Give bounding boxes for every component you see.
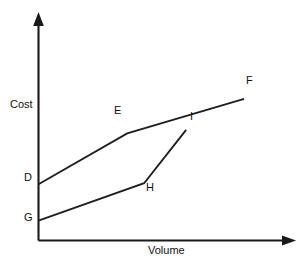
- series-line-lower-cost-curve: [39, 130, 187, 221]
- point-label-d: D: [24, 172, 32, 183]
- y-axis-arrow-icon: [33, 12, 44, 26]
- chart-canvas: Cost Volume D E F G H I: [0, 0, 308, 262]
- x-axis-title: Volume: [148, 245, 185, 256]
- y-axis-title: Cost: [10, 99, 33, 110]
- point-label-e: E: [114, 105, 121, 116]
- series-line-upper-cost-curve: [39, 99, 245, 184]
- point-label-g: G: [24, 212, 33, 223]
- point-label-i: I: [190, 111, 193, 122]
- chart-graphics: [0, 0, 308, 262]
- point-label-h: H: [146, 182, 154, 193]
- point-label-f: F: [246, 75, 253, 86]
- x-axis-arrow-icon: [282, 235, 296, 245]
